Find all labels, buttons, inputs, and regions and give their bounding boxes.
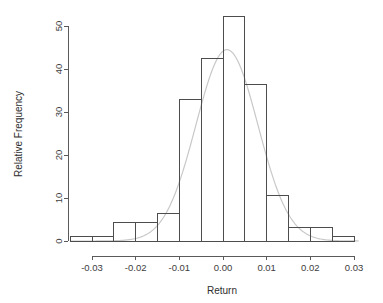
histogram-bar	[70, 237, 92, 241]
x-axis-ticks	[92, 256, 354, 260]
histogram-bar	[158, 213, 180, 241]
y-axis: 01020304050	[53, 21, 69, 244]
y-axis-tick-label: 20	[53, 150, 64, 161]
plot-canvas: 01020304050 -0.03-0.02-0.010.000.010.020…	[0, 0, 383, 303]
y-axis-tick-label: 10	[53, 193, 64, 204]
x-axis-tick-labels: -0.03-0.02-0.010.000.010.020.03	[81, 262, 363, 273]
x-axis-title: Return	[207, 285, 237, 296]
x-axis-tick-label: -0.03	[81, 262, 103, 273]
histogram-bars	[70, 17, 354, 241]
y-axis-tick-label: 40	[53, 64, 64, 75]
histogram-bar	[245, 84, 267, 241]
y-axis-tick-labels: 01020304050	[53, 21, 64, 244]
x-axis: -0.03-0.02-0.010.000.010.020.03	[81, 256, 363, 273]
y-axis-tick-label: 50	[53, 21, 64, 32]
histogram-plot: 01020304050 -0.03-0.02-0.010.000.010.020…	[0, 0, 383, 303]
normal-density-curve	[70, 50, 358, 241]
x-axis-tick-label: -0.01	[169, 262, 191, 273]
y-axis-ticks	[64, 26, 68, 241]
x-axis-tick-label: 0.01	[257, 262, 276, 273]
y-axis-title: Relative Frequency	[13, 91, 24, 177]
x-axis-tick-label: 0.03	[345, 262, 364, 273]
histogram-bar	[201, 58, 223, 241]
histogram-bar	[136, 223, 158, 241]
x-axis-tick-label: 0.02	[301, 262, 320, 273]
x-axis-tick-label: -0.02	[125, 262, 147, 273]
y-axis-tick-label: 30	[53, 107, 64, 118]
histogram-bar	[267, 195, 289, 241]
histogram-bar	[179, 99, 201, 241]
y-axis-tick-label: 0	[53, 238, 64, 243]
histogram-bar	[114, 223, 136, 241]
x-axis-tick-label: 0.00	[214, 262, 233, 273]
